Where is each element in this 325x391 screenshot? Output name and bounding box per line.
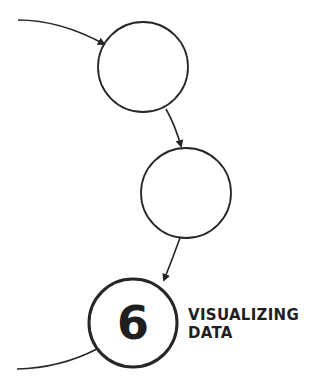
step-node-5 xyxy=(141,148,231,238)
step-number: 6 xyxy=(93,290,173,356)
step-title-line-2: DATA xyxy=(188,324,299,342)
step-title: VISUALIZING DATA xyxy=(188,306,299,342)
arrow-4-to-5 xyxy=(166,109,181,146)
step-node-4 xyxy=(98,22,188,112)
step-title-line-1: VISUALIZING xyxy=(188,306,299,324)
outgoing-line xyxy=(17,349,97,369)
incoming-arrow xyxy=(18,20,104,44)
arrow-5-to-6 xyxy=(164,238,180,280)
